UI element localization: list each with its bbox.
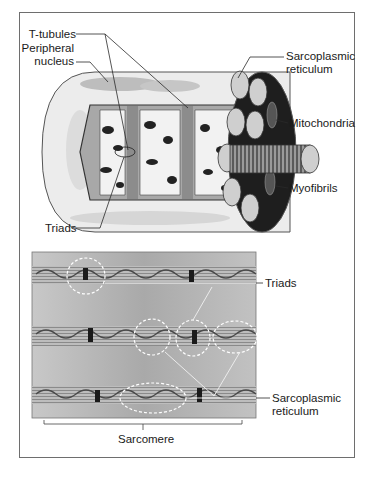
muscle-fiber-illustration — [42, 71, 319, 232]
label-t-tubules: T-tubules — [28, 28, 76, 41]
label-mitochondria: Mitochondria — [289, 117, 355, 130]
label-myofibrils: Myofibrils — [289, 182, 338, 195]
electron-micrograph — [32, 252, 257, 430]
label-sarcoplasmic-reticulum-bottom-1: Sarcoplasmic — [272, 392, 341, 405]
label-peripheral-nucleus-1: Peripheral — [20, 42, 74, 55]
label-sarcoplasmic-reticulum-top-1: Sarcoplasmic — [286, 50, 355, 63]
label-triads-bottom: Triads — [265, 277, 297, 290]
label-sarcoplasmic-reticulum-bottom-2: reticulum — [272, 405, 319, 418]
label-peripheral-nucleus-2: nucleus — [20, 55, 74, 68]
label-triads-top: Triads — [45, 222, 77, 235]
label-sarcoplasmic-reticulum-top-2: reticulum — [286, 63, 333, 76]
label-sarcomere: Sarcomere — [118, 433, 174, 446]
